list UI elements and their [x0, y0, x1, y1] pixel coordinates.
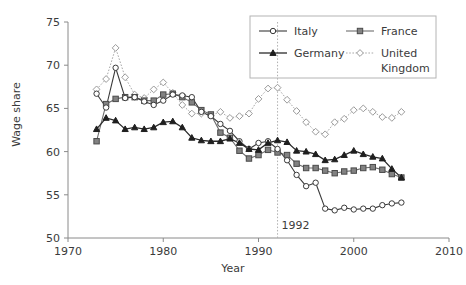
x-tick-label: 1970 [54, 245, 82, 258]
data-point-united-kingdom [284, 96, 291, 103]
data-point-france [246, 156, 251, 161]
data-point-italy [189, 94, 194, 99]
y-tick-group: 505560657075 [46, 16, 68, 245]
data-point-italy [94, 91, 99, 96]
data-point-france [265, 147, 270, 152]
data-point-france [351, 168, 356, 173]
x-tick-label: 1980 [149, 245, 177, 258]
data-point-italy [227, 128, 232, 133]
data-point-italy [161, 98, 166, 103]
data-point-france [94, 139, 99, 144]
data-point-france [113, 96, 118, 101]
data-point-france [218, 130, 223, 135]
series-line-united-kingdom [97, 48, 402, 134]
data-point-germany [132, 124, 138, 130]
data-point-italy [294, 172, 299, 177]
y-tick-label: 75 [46, 16, 60, 29]
data-point-united-kingdom [122, 74, 129, 81]
data-point-france [332, 171, 337, 176]
chart-container: Wage share Year 505560657075 19701980199… [0, 0, 466, 285]
data-point-italy [170, 92, 175, 97]
data-point-france [256, 152, 261, 157]
y-tick-label: 50 [46, 232, 60, 245]
data-point-italy [218, 121, 223, 126]
data-point-italy [284, 158, 289, 163]
data-point-italy [180, 93, 185, 98]
data-point-united-kingdom [236, 113, 243, 120]
data-point-germany [151, 124, 157, 130]
legend-label-germany[interactable]: Germany [294, 47, 345, 60]
data-point-france [370, 164, 375, 169]
data-point-france [361, 165, 366, 170]
series-line-italy [97, 68, 402, 211]
data-point-united-kingdom [369, 108, 376, 115]
data-point-united-kingdom [217, 108, 224, 115]
data-point-united-kingdom [227, 115, 234, 122]
data-point-italy [389, 201, 394, 206]
y-tick-label: 55 [46, 189, 60, 202]
data-point-united-kingdom [398, 108, 405, 115]
year-marker-label: 1992 [282, 219, 310, 232]
data-point-italy [399, 200, 404, 205]
y-tick-label: 65 [46, 102, 60, 115]
legend-label-united-kingdom[interactable]: United [381, 47, 417, 60]
data-point-italy [303, 183, 308, 188]
data-point-united-kingdom [360, 105, 367, 112]
data-point-united-kingdom [388, 115, 395, 122]
data-point-france [313, 165, 318, 170]
legend-label-united-kingdom[interactable]: Kingdom [381, 62, 430, 75]
data-point-france [237, 148, 242, 153]
x-tick-label: 2010 [435, 245, 463, 258]
legend-swatch-marker-france [357, 28, 362, 33]
data-point-italy [122, 95, 127, 100]
legend-swatch-marker-italy [270, 28, 275, 33]
data-point-italy [342, 205, 347, 210]
legend-swatch-marker-united-kingdom [357, 50, 364, 57]
data-point-united-kingdom [112, 45, 119, 52]
data-point-germany [179, 124, 185, 130]
data-point-united-kingdom [379, 114, 386, 121]
data-point-italy [351, 207, 356, 212]
data-point-italy [380, 202, 385, 207]
data-point-france [189, 100, 194, 105]
data-point-germany [274, 137, 280, 143]
x-tick-group: 19701980199020002010 [54, 238, 463, 258]
x-tick-label: 2000 [340, 245, 368, 258]
data-point-italy [322, 206, 327, 211]
data-point-france [284, 152, 289, 157]
data-point-germany [351, 148, 357, 154]
data-point-united-kingdom [255, 95, 262, 102]
data-point-italy [256, 140, 261, 145]
legend-label-italy[interactable]: Italy [294, 25, 318, 38]
y-tick-label: 70 [46, 59, 60, 72]
data-point-france [294, 161, 299, 166]
data-point-france [161, 92, 166, 97]
data-point-germany [103, 115, 109, 121]
data-point-france [380, 167, 385, 172]
data-point-italy [132, 94, 137, 99]
series-line-france [97, 94, 402, 178]
x-tick-label: 1990 [245, 245, 273, 258]
y-tick-label: 60 [46, 146, 60, 159]
plot-area: 505560657075 19701980199020002010 1992 I… [0, 0, 466, 285]
data-point-france [303, 165, 308, 170]
data-point-france [342, 169, 347, 174]
data-point-italy [199, 109, 204, 114]
data-point-italy [151, 102, 156, 107]
data-point-france [322, 168, 327, 173]
data-point-italy [361, 206, 366, 211]
legend-label-france[interactable]: France [381, 25, 418, 38]
data-point-italy [313, 180, 318, 185]
data-point-italy [103, 105, 108, 110]
data-point-italy [370, 206, 375, 211]
data-point-italy [332, 208, 337, 213]
data-point-italy [208, 113, 213, 118]
data-point-united-kingdom [150, 86, 157, 93]
data-point-united-kingdom [246, 110, 253, 117]
data-point-italy [275, 146, 280, 151]
data-point-italy [142, 99, 147, 104]
data-point-france [389, 171, 394, 176]
data-point-italy [113, 65, 118, 70]
